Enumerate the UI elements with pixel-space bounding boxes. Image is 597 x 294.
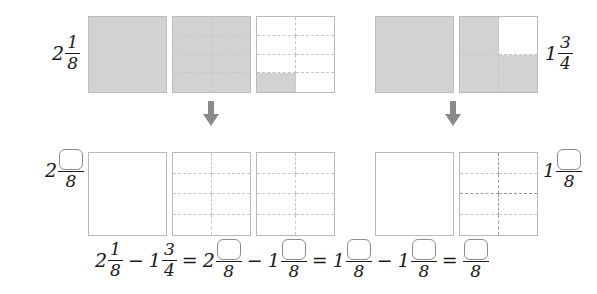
row1-right-numerator: 3 bbox=[558, 34, 573, 52]
equation-term-mixed-boxed: 1 8 bbox=[333, 239, 372, 281]
equation-fraction: 8 bbox=[463, 239, 489, 281]
answer-box-numerator[interactable] bbox=[412, 239, 436, 260]
grid-cell bbox=[499, 153, 538, 174]
grid-cell bbox=[212, 153, 251, 174]
answer-box-numerator[interactable] bbox=[282, 239, 306, 260]
equation-operator: = bbox=[307, 249, 333, 271]
equation-denominator: 4 bbox=[162, 262, 177, 280]
equation: 2 1 8 − 1 3 4 = 2 8 bbox=[95, 232, 489, 288]
grid-cell bbox=[173, 36, 212, 55]
grid-cell bbox=[296, 55, 335, 74]
grid-cell bbox=[173, 73, 212, 92]
equation-fraction: 8 bbox=[346, 239, 372, 281]
convert-arrow-left-icon bbox=[203, 101, 219, 127]
equation-denominator: 8 bbox=[108, 262, 123, 280]
grid-cell bbox=[499, 215, 538, 236]
equation-whole: 2 bbox=[203, 251, 216, 270]
answer-box-numerator[interactable] bbox=[347, 239, 371, 260]
equation-numerator: 3 bbox=[162, 241, 177, 259]
equation-term-mixed: 1 3 4 bbox=[149, 241, 177, 280]
eighths-grid bbox=[173, 17, 250, 92]
grid-cell bbox=[257, 17, 296, 36]
equation-denominator: 8 bbox=[351, 263, 366, 281]
grid-cell-shaded bbox=[460, 17, 499, 55]
grid-cell bbox=[499, 17, 538, 55]
equation-operator: − bbox=[372, 249, 398, 271]
grid-cell bbox=[460, 174, 499, 195]
arrow-head bbox=[445, 114, 461, 126]
answer-box-numerator[interactable] bbox=[59, 149, 83, 170]
equation-fraction: 3 4 bbox=[162, 241, 177, 280]
row2-left-denominator: 8 bbox=[64, 173, 79, 191]
row2-model-part-square-eighths-blank-with-fourths[interactable] bbox=[459, 152, 538, 236]
row1-right-denominator: 4 bbox=[558, 55, 573, 73]
eighths-grid bbox=[460, 153, 537, 235]
equation-term-mixed: 2 1 8 bbox=[95, 241, 123, 280]
answer-box-numerator[interactable] bbox=[464, 239, 488, 260]
row2-right-fraction: 8 bbox=[556, 149, 582, 191]
grid-cell bbox=[212, 17, 251, 36]
equation-whole: 1 bbox=[149, 251, 162, 270]
row1-model-part-square-fourths-three-shaded bbox=[459, 16, 538, 93]
row2-model-whole-square-eighths-blank[interactable] bbox=[172, 152, 251, 236]
grid-cell bbox=[296, 17, 335, 36]
row2-model-right-whole-square-blank[interactable] bbox=[375, 152, 454, 236]
row1-left-fraction: 1 8 bbox=[65, 34, 80, 73]
row1-left-whole: 2 bbox=[52, 44, 65, 63]
equation-operator: − bbox=[242, 249, 268, 271]
grid-cell bbox=[460, 194, 499, 215]
equation-operator: = bbox=[437, 249, 463, 271]
row1-right-whole: 1 bbox=[545, 44, 558, 63]
grid-cell-shaded bbox=[499, 55, 538, 93]
row1-right-fraction: 3 4 bbox=[558, 34, 573, 73]
grid-cell bbox=[296, 73, 335, 92]
row1-left-numerator: 1 bbox=[65, 34, 80, 52]
row2-model-whole-square-blank[interactable] bbox=[88, 152, 167, 236]
row1-model-whole-square-eighths-full bbox=[172, 16, 251, 93]
equation-whole: 1 bbox=[398, 251, 411, 270]
equation-denominator: 8 bbox=[221, 263, 236, 281]
equation-term-mixed-boxed: 1 8 bbox=[268, 239, 307, 281]
grid-cell bbox=[499, 194, 538, 215]
fourths-grid bbox=[460, 17, 537, 92]
worksheet-canvas: 2 1 8 bbox=[0, 0, 597, 294]
equation-fraction: 1 8 bbox=[108, 241, 123, 280]
grid-cell bbox=[296, 153, 335, 174]
arrow-head bbox=[203, 114, 219, 126]
grid-cell bbox=[460, 153, 499, 174]
grid-cell bbox=[296, 174, 335, 195]
equation-operator: = bbox=[177, 249, 203, 271]
grid-cell bbox=[257, 153, 296, 174]
equation-term-answer: 8 bbox=[463, 239, 489, 281]
row1-right-label: 1 3 4 bbox=[545, 30, 595, 76]
grid-cell bbox=[257, 174, 296, 195]
row2-right-label: 1 8 bbox=[543, 140, 597, 200]
eighths-grid bbox=[257, 153, 334, 235]
equation-whole: 2 bbox=[95, 251, 108, 270]
eighths-grid bbox=[173, 153, 250, 235]
row2-right-whole: 1 bbox=[543, 161, 556, 180]
equation-denominator: 8 bbox=[468, 263, 483, 281]
answer-box-numerator[interactable] bbox=[217, 239, 241, 260]
row2-model-part-square-eighths-blank[interactable] bbox=[256, 152, 335, 236]
grid-cell bbox=[173, 153, 212, 174]
grid-cell bbox=[173, 17, 212, 36]
row1-left-denominator: 8 bbox=[65, 55, 80, 73]
row2-left-label: 2 8 bbox=[26, 140, 84, 200]
grid-cell bbox=[499, 174, 538, 195]
equation-whole: 1 bbox=[268, 251, 281, 270]
eighths-grid bbox=[257, 17, 334, 92]
row1-model-right-whole-square-full bbox=[375, 16, 454, 93]
row1-model-whole-square-full bbox=[88, 16, 167, 93]
convert-arrow-right-icon bbox=[445, 101, 461, 127]
grid-cell bbox=[212, 73, 251, 92]
row2-right-denominator: 8 bbox=[562, 173, 577, 191]
equation-numerator: 1 bbox=[108, 241, 123, 259]
equation-fraction: 8 bbox=[281, 239, 307, 281]
answer-box-numerator[interactable] bbox=[557, 149, 581, 170]
equation-fraction: 8 bbox=[216, 239, 242, 281]
grid-cell-shaded bbox=[460, 55, 499, 93]
equation-operator: − bbox=[123, 249, 149, 271]
grid-cell bbox=[173, 194, 212, 215]
equation-denominator: 8 bbox=[416, 263, 431, 281]
